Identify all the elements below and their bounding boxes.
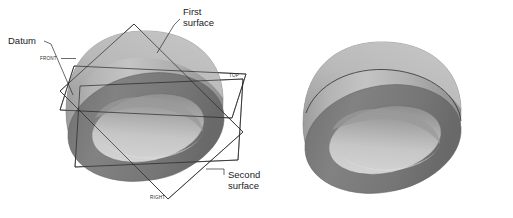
datum-plane-label-front: FRONT	[40, 56, 57, 61]
annotation-first-surface-label-line2: surface	[183, 17, 214, 28]
annotation-second-surface-label-line1: Second	[228, 169, 260, 180]
ring-solid-left	[58, 31, 235, 195]
datum-plane-label-right: RIGHT	[150, 195, 165, 200]
annotation-second-surface-label-line2: surface	[228, 180, 259, 191]
right-view-plain-ring	[295, 42, 472, 207]
annotation-datum-label: Datum	[8, 35, 36, 46]
figure-canvas: FRONT TOP RIGHT Datum First surface Seco…	[0, 0, 513, 218]
annotation-second-surface: Second surface	[206, 169, 260, 191]
datum-plane-label-top: TOP	[229, 73, 239, 78]
annotation-first-surface-label-line1: First	[183, 6, 202, 17]
technical-illustration-figure: FRONT TOP RIGHT Datum First surface Seco…	[0, 0, 513, 218]
left-view-annotated-ring: FRONT TOP RIGHT Datum First surface Seco…	[8, 6, 260, 200]
annotation-second-surface-leader	[206, 169, 224, 175]
annotation-datum: Datum	[8, 35, 73, 95]
